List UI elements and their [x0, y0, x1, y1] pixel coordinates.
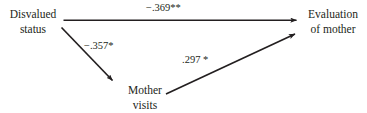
node-evaluation-of-mother: Evaluation of mother — [300, 7, 366, 36]
node-mother-visits-line2: visits — [113, 98, 177, 113]
node-evaluation-of-mother-line2: of mother — [300, 22, 366, 37]
path-label-direct-effect: −.369** — [146, 2, 181, 14]
node-mother-visits: Mother visits — [113, 83, 177, 112]
node-evaluation-of-mother-line1: Evaluation — [300, 7, 366, 22]
path-label-path-b: .297 * — [182, 54, 208, 66]
node-disvalued-status-line1: Disvalued — [2, 7, 64, 22]
path-diagram: Disvalued status Evaluation of mother Mo… — [0, 0, 367, 113]
node-mother-visits-line1: Mother — [113, 83, 177, 98]
node-disvalued-status: Disvalued status — [2, 7, 64, 36]
arrow-path-a — [62, 28, 113, 81]
node-disvalued-status-line2: status — [2, 22, 64, 37]
path-label-path-a: −.357* — [84, 40, 114, 52]
